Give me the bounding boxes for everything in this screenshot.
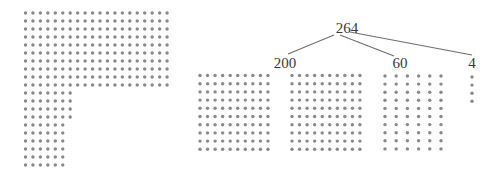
dot [206, 131, 209, 134]
dot [328, 107, 331, 110]
dot [31, 123, 34, 126]
dot [251, 74, 254, 77]
dot [221, 98, 224, 101]
dot [236, 123, 239, 126]
dot [98, 75, 101, 78]
dot [83, 51, 86, 54]
dot [24, 107, 27, 110]
dot [417, 131, 420, 134]
dot [39, 83, 42, 86]
dot [83, 35, 86, 38]
dot [428, 139, 431, 142]
dot [39, 75, 42, 78]
dot [113, 35, 116, 38]
dot [198, 139, 201, 142]
dot [244, 131, 247, 134]
dot [198, 131, 201, 134]
dot [229, 74, 232, 77]
dot [54, 83, 57, 86]
dot [358, 98, 361, 101]
dot [395, 123, 398, 126]
dot [305, 148, 308, 151]
dot [46, 51, 49, 54]
dot [76, 35, 79, 38]
dot [136, 59, 139, 62]
dot [213, 82, 216, 85]
dot [244, 74, 247, 77]
dot [91, 11, 94, 14]
dot [336, 107, 339, 110]
dot [229, 115, 232, 118]
dot [31, 27, 34, 30]
dot [439, 82, 442, 85]
dot [358, 131, 361, 134]
dot [206, 123, 209, 126]
dot [343, 139, 346, 142]
dot [383, 147, 386, 150]
dot [31, 43, 34, 46]
dot [121, 59, 124, 62]
dot [351, 115, 354, 118]
dot [121, 75, 124, 78]
dot [229, 139, 232, 142]
dot [428, 74, 431, 77]
dot [343, 131, 346, 134]
dot [54, 155, 57, 158]
dot [328, 82, 331, 85]
dot [69, 91, 72, 94]
left-dot-array-264 [24, 11, 169, 166]
dot [113, 51, 116, 54]
dot [113, 43, 116, 46]
dot [383, 115, 386, 118]
dot [229, 98, 232, 101]
dot [336, 148, 339, 151]
dot [136, 75, 139, 78]
dot [213, 131, 216, 134]
dot [470, 100, 473, 103]
dot [328, 74, 331, 77]
dot [221, 123, 224, 126]
dot [328, 148, 331, 151]
dot [106, 19, 109, 22]
dot [165, 75, 168, 78]
dot [321, 107, 324, 110]
dot [54, 75, 57, 78]
dot [229, 131, 232, 134]
dot [143, 67, 146, 70]
dot [328, 131, 331, 134]
dot [206, 148, 209, 151]
dot [128, 43, 131, 46]
dot [158, 19, 161, 22]
dot [395, 107, 398, 110]
dot [128, 27, 131, 30]
dot [46, 155, 49, 158]
dot [121, 51, 124, 54]
dot-block-200-part-1 [198, 74, 269, 151]
dot [321, 123, 324, 126]
dot [417, 107, 420, 110]
dot [395, 139, 398, 142]
dot [98, 19, 101, 22]
dot [266, 82, 269, 85]
dot [290, 123, 293, 126]
dot [229, 107, 232, 110]
dot [221, 115, 224, 118]
dot [343, 74, 346, 77]
dot [343, 123, 346, 126]
dot [136, 67, 139, 70]
dot [61, 115, 64, 118]
dot [54, 139, 57, 142]
dot [113, 59, 116, 62]
dot [128, 67, 131, 70]
dot [198, 90, 201, 93]
dot [46, 19, 49, 22]
dot [39, 99, 42, 102]
dot [76, 75, 79, 78]
dot [383, 99, 386, 102]
dot [244, 107, 247, 110]
dot [39, 67, 42, 70]
dot [128, 51, 131, 54]
dot [406, 107, 409, 110]
dot [406, 115, 409, 118]
dot [259, 139, 262, 142]
